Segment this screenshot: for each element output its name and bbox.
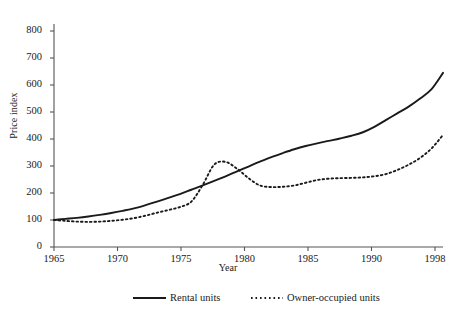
x-tick-label-1985: 1985 <box>278 253 338 264</box>
y-tick-label-200: 200 <box>8 186 42 197</box>
y-tick-label-100: 100 <box>8 213 42 224</box>
x-tick-label-1975: 1975 <box>151 253 211 264</box>
x-tick-label-1965: 1965 <box>24 253 84 264</box>
y-tick-label-300: 300 <box>8 159 42 170</box>
chart-figure: Price index Year 01002003004005006007008… <box>0 0 456 323</box>
y-axis-ticks <box>50 31 54 247</box>
x-tick-label-1990: 1990 <box>342 253 402 264</box>
y-tick-label-400: 400 <box>8 132 42 143</box>
y-tick-label-500: 500 <box>8 105 42 116</box>
x-tick-label-1998: 1998 <box>405 253 456 264</box>
y-tick-label-600: 600 <box>8 78 42 89</box>
x-tick-label-1970: 1970 <box>88 253 148 264</box>
y-tick-label-700: 700 <box>8 51 42 62</box>
line-chart-plot <box>0 0 456 323</box>
axis-lines <box>50 24 443 251</box>
y-tick-label-0: 0 <box>8 240 42 251</box>
series-line-owner-occupied-units <box>54 135 443 222</box>
x-tick-label-1980: 1980 <box>215 253 275 264</box>
legend-label-rental-units: Rental units <box>170 292 220 303</box>
x-axis-ticks <box>54 247 435 251</box>
legend-label-owner-occupied-units: Owner-occupied units <box>287 292 380 303</box>
series-line-rental-units <box>54 73 443 220</box>
y-tick-label-800: 800 <box>8 24 42 35</box>
